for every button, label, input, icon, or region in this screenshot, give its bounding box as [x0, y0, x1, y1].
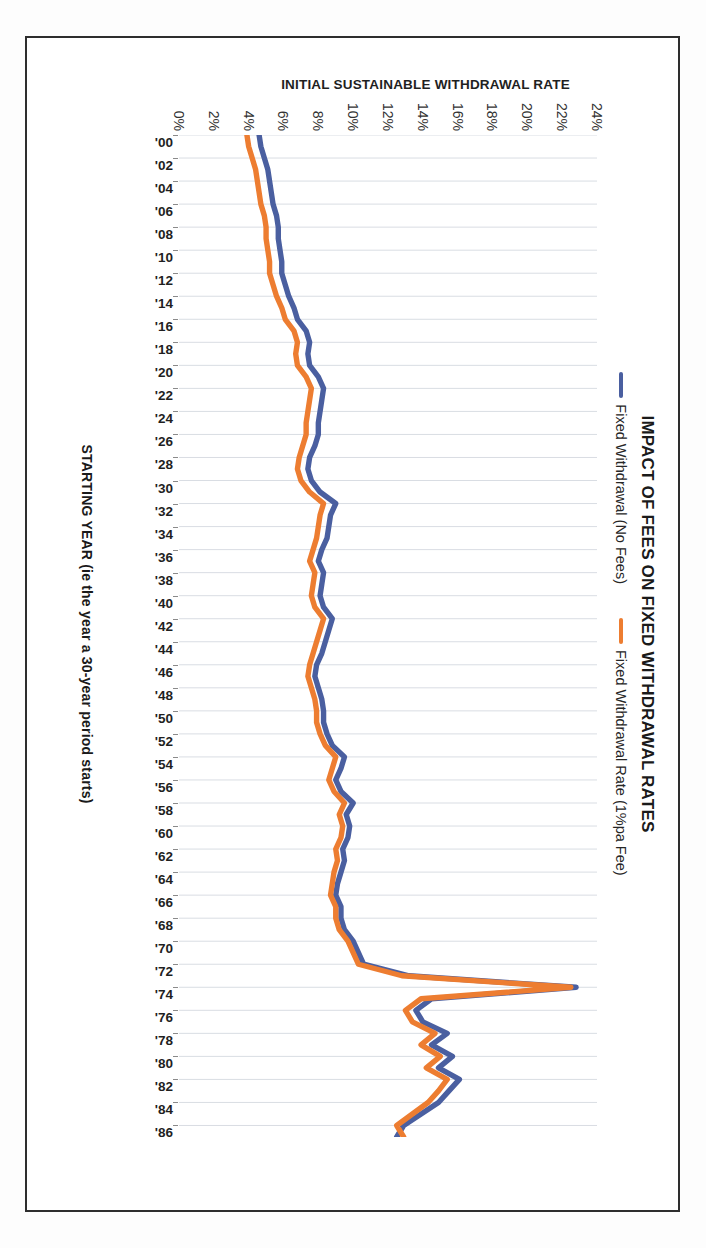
- x-tick-mark: [173, 941, 178, 942]
- x-tick-label: '10: [154, 250, 172, 265]
- x-tick-mark: [173, 849, 178, 850]
- x-tick-label: '74: [154, 987, 172, 1002]
- x-tick-mark: [173, 181, 178, 182]
- legend-swatch-no-fees: [619, 372, 623, 398]
- x-tick-label: '48: [154, 688, 172, 703]
- x-tick-label: '56: [154, 780, 172, 795]
- rotated-chart-stage: IMPACT OF FEES ON FIXED WITHDRAWAL RATES…: [43, 49, 663, 1199]
- x-tick-label: '68: [154, 918, 172, 933]
- legend-item-with-fee[interactable]: Fixed Withdrawal Rate (1%pa Fee): [613, 618, 629, 876]
- x-tick-label: '64: [154, 872, 172, 887]
- x-tick-mark: [173, 135, 178, 136]
- x-tick-mark: [173, 711, 178, 712]
- x-tick-label: '30: [154, 481, 172, 496]
- x-tick-mark: [173, 895, 178, 896]
- y-tick-label: 10%: [345, 103, 361, 131]
- x-tick-mark: [173, 1010, 178, 1011]
- x-tick-label: '20: [154, 365, 172, 380]
- y-tick-label: 16%: [449, 103, 465, 131]
- y-tick-label: 8%: [310, 111, 326, 131]
- x-tick-mark: [173, 803, 178, 804]
- plot-area: [179, 135, 597, 1137]
- x-tick-label: '84: [154, 1102, 172, 1117]
- x-tick-label: '14: [154, 296, 172, 311]
- x-tick-label: '54: [154, 757, 172, 772]
- x-tick-label: '34: [154, 527, 172, 542]
- x-tick-mark: [173, 1033, 178, 1034]
- x-tick-label: '52: [154, 734, 172, 749]
- x-tick-mark: [173, 204, 178, 205]
- x-tick-mark: [173, 826, 178, 827]
- x-tick-mark: [173, 388, 178, 389]
- x-tick-label: '44: [154, 642, 172, 657]
- x-tick-label: '78: [154, 1033, 172, 1048]
- x-tick-mark: [173, 642, 178, 643]
- x-tick-mark: [173, 987, 178, 988]
- x-tick-label: '18: [154, 342, 172, 357]
- chart-legend: Fixed Withdrawal (No Fees) Fixed Withdra…: [613, 49, 629, 1199]
- x-tick-mark: [173, 573, 178, 574]
- x-tick-mark: [173, 918, 178, 919]
- legend-swatch-with-fee: [619, 618, 623, 644]
- y-tick-label: 0%: [171, 111, 187, 131]
- legend-item-no-fees[interactable]: Fixed Withdrawal (No Fees): [613, 372, 629, 584]
- x-tick-mark: [173, 411, 178, 412]
- x-tick-label: '04: [154, 181, 172, 196]
- x-tick-mark: [173, 227, 178, 228]
- x-tick-mark: [173, 342, 178, 343]
- x-tick-label: '62: [154, 849, 172, 864]
- x-tick-mark: [173, 1056, 178, 1057]
- x-tick-mark: [173, 457, 178, 458]
- x-tick-mark: [173, 527, 178, 528]
- x-tick-label: '40: [154, 596, 172, 611]
- x-tick-mark: [173, 1125, 178, 1126]
- x-tick-label: '12: [154, 273, 172, 288]
- y-tick-label: 12%: [380, 103, 396, 131]
- x-tick-mark: [173, 665, 178, 666]
- x-tick-label: '58: [154, 803, 172, 818]
- x-tick-mark: [173, 757, 178, 758]
- y-tick-label: 14%: [414, 103, 430, 131]
- legend-label-with-fee: Fixed Withdrawal Rate (1%pa Fee): [613, 650, 629, 876]
- x-tick-mark: [173, 250, 178, 251]
- x-tick-mark: [173, 319, 178, 320]
- x-tick-label: '66: [154, 895, 172, 910]
- x-tick-mark: [173, 158, 178, 159]
- x-tick-label: '22: [154, 388, 172, 403]
- x-tick-label: '02: [154, 158, 172, 173]
- x-tick-mark: [173, 780, 178, 781]
- plot-svg: [179, 135, 597, 1137]
- x-tick-label: '36: [154, 550, 172, 565]
- x-tick-mark: [173, 1102, 178, 1103]
- x-tick-mark: [173, 734, 178, 735]
- y-tick-label: 18%: [484, 103, 500, 131]
- x-tick-label: '38: [154, 573, 172, 588]
- y-tick-label: 24%: [589, 103, 605, 131]
- x-tick-label: '82: [154, 1079, 172, 1094]
- x-tick-label: '76: [154, 1010, 172, 1025]
- y-tick-label: 6%: [275, 111, 291, 131]
- x-tick-mark: [173, 596, 178, 597]
- x-tick-mark: [173, 481, 178, 482]
- x-tick-mark: [173, 296, 178, 297]
- y-tick-label: 20%: [519, 103, 535, 131]
- y-tick-label: 2%: [205, 111, 221, 131]
- chart-title: IMPACT OF FEES ON FIXED WITHDRAWAL RATES: [637, 49, 657, 1199]
- x-axis-tick-labels: '00'02'04'06'08'10'12'14'16'18'20'22'24'…: [127, 135, 173, 1137]
- x-tick-mark: [173, 619, 178, 620]
- x-tick-label: '42: [154, 619, 172, 634]
- x-tick-label: '08: [154, 227, 172, 242]
- line-chart: IMPACT OF FEES ON FIXED WITHDRAWAL RATES…: [43, 49, 663, 1199]
- y-tick-label: 22%: [554, 103, 570, 131]
- x-tick-label: '80: [154, 1056, 172, 1071]
- x-tick-label: '26: [154, 434, 172, 449]
- x-tick-mark: [173, 365, 178, 366]
- x-tick-label: '50: [154, 711, 172, 726]
- legend-label-no-fees: Fixed Withdrawal (No Fees): [613, 404, 629, 584]
- x-tick-mark: [173, 964, 178, 965]
- x-tick-label: '06: [154, 204, 172, 219]
- x-tick-mark: [173, 1079, 178, 1080]
- x-tick-label: '72: [154, 964, 172, 979]
- x-tick-label: '70: [154, 941, 172, 956]
- x-tick-mark: [173, 273, 178, 274]
